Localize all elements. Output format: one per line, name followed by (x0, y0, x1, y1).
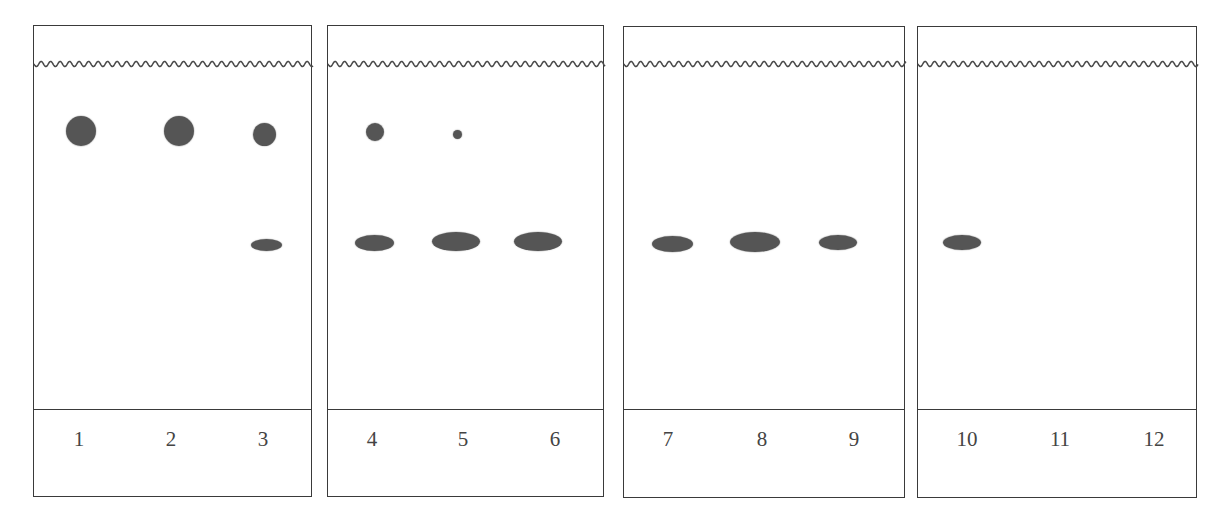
lane-label-12: 12 (1134, 427, 1174, 451)
spot-lane-3-upper (253, 123, 276, 146)
spot-lane-5-lower (432, 232, 480, 251)
lane-label-9: 9 (834, 427, 874, 451)
lane-label-1: 1 (59, 427, 99, 451)
lane-label-11: 11 (1040, 427, 1080, 451)
spot-lane-7-lower (652, 236, 693, 252)
lane-label-5: 5 (443, 427, 483, 451)
spot-lane-6-lower (514, 232, 562, 251)
spot-lane-1-upper (66, 116, 96, 146)
spot-lane-3-lower (251, 239, 282, 251)
spot-lane-2-upper (164, 116, 194, 146)
baseline-divider (34, 409, 311, 410)
spot-lane-10-lower (943, 235, 981, 250)
lane-label-7: 7 (648, 427, 688, 451)
spot-lane-5-upper (453, 130, 462, 139)
lane-label-3: 3 (243, 427, 283, 451)
lane-label-4: 4 (352, 427, 392, 451)
spot-lane-4-upper (366, 123, 384, 141)
lane-label-2: 2 (151, 427, 191, 451)
lane-label-8: 8 (742, 427, 782, 451)
tlc-figure: 1 2 3 4 5 6 7 8 9 10 11 12 (0, 0, 1230, 526)
baseline-divider (624, 409, 904, 410)
lane-label-6: 6 (535, 427, 575, 451)
spot-lane-4-lower (355, 235, 394, 251)
spot-lane-8-lower (730, 232, 780, 252)
spot-lane-9-lower (819, 235, 857, 250)
lane-label-10: 10 (947, 427, 987, 451)
baseline-divider (918, 409, 1196, 410)
baseline-divider (328, 409, 603, 410)
